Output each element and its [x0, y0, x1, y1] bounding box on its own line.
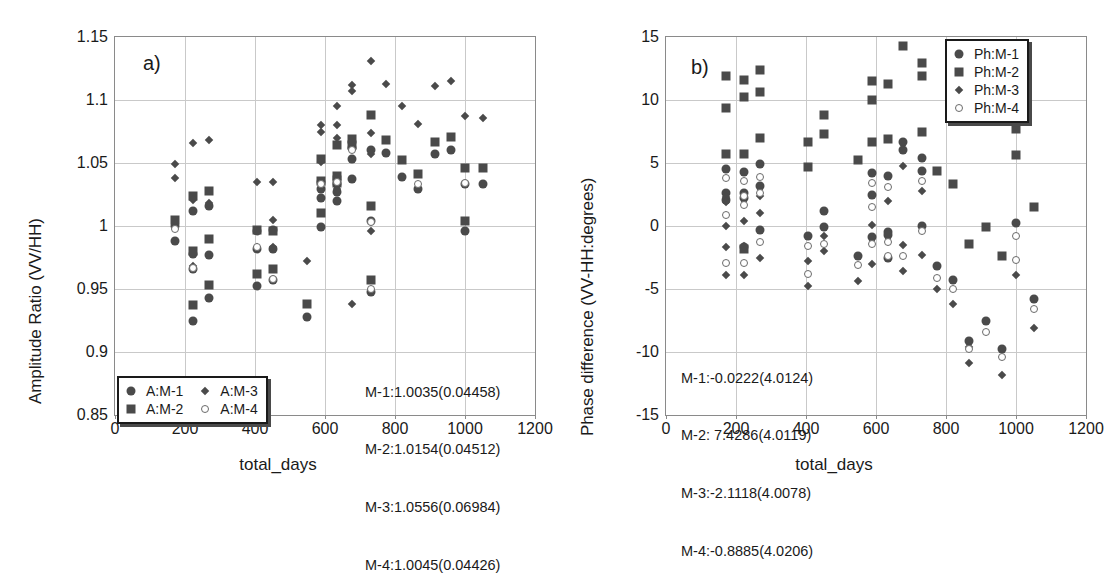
data-point [899, 41, 908, 50]
data-point [804, 242, 812, 250]
data-point [884, 79, 893, 88]
legend-label: Ph:M-4 [974, 100, 1019, 116]
data-point [252, 269, 261, 278]
y-axis-tick-label: 0 [650, 217, 666, 235]
data-point [820, 130, 829, 139]
data-point [1030, 305, 1038, 313]
data-point [252, 282, 261, 291]
data-point [367, 285, 375, 293]
legend-item-a-m3[interactable]: A:M-3 [199, 383, 257, 399]
legend-label: A:M-1 [146, 383, 183, 399]
data-point [431, 137, 440, 146]
data-point [1012, 151, 1021, 160]
open-circle-icon [199, 403, 211, 415]
data-point [917, 186, 925, 194]
data-point [755, 160, 764, 169]
data-point [917, 153, 926, 162]
data-point [917, 72, 926, 81]
data-point [333, 102, 341, 110]
data-point [1012, 219, 1021, 228]
panel-b: Phase difference (VV-HH:degrees) -15-10-… [556, 0, 1112, 511]
data-point [740, 177, 748, 185]
y-axis-tick-label: 0.95 [77, 280, 115, 298]
data-point [722, 150, 731, 159]
legend-item-a-m4[interactable]: A:M-4 [199, 401, 257, 417]
data-point [756, 209, 764, 217]
data-point [188, 247, 197, 256]
data-point [188, 301, 197, 310]
legend-item-b-m4[interactable]: Ph:M-4 [953, 100, 1019, 116]
data-point [933, 262, 942, 271]
legend-label: A:M-4 [220, 401, 257, 417]
data-point [756, 253, 764, 261]
data-point [998, 370, 1006, 378]
legend-item-b-m3[interactable]: Ph:M-3 [953, 82, 1019, 98]
data-point [478, 180, 487, 189]
panel-b-legend[interactable]: Ph:M-1 Ph:M-2 Ph:M-3 Ph:M-4 [945, 39, 1029, 123]
data-point [853, 156, 862, 165]
data-point [755, 225, 764, 234]
data-point [461, 164, 470, 173]
data-point [1029, 324, 1037, 332]
data-point [269, 227, 278, 236]
data-point [917, 59, 926, 68]
data-point [205, 136, 213, 144]
data-point [382, 148, 391, 157]
data-point [269, 275, 277, 283]
stats-line: M-4:-0.8885(4.0206) [681, 542, 813, 561]
y-axis-tick-label: 1.1 [86, 91, 115, 109]
data-point [884, 252, 892, 260]
filled-diamond-icon [199, 385, 211, 397]
y-axis-tick-label: 10 [641, 91, 666, 109]
data-point [820, 247, 828, 255]
data-point [189, 264, 197, 272]
data-point [461, 216, 470, 225]
data-point [949, 300, 957, 308]
panel-b-x-axis-title: total_days [556, 455, 1112, 475]
legend-item-b-m1[interactable]: Ph:M-1 [953, 46, 1019, 62]
data-point [478, 113, 486, 121]
data-point [398, 172, 407, 181]
legend-item-b-m2[interactable]: Ph:M-2 [953, 64, 1019, 80]
stats-line: M-3:1.0556(0.06984) [365, 498, 500, 517]
data-point [884, 135, 893, 144]
data-point [722, 174, 730, 182]
data-point [918, 227, 926, 235]
data-point [204, 234, 213, 243]
data-point [964, 239, 973, 248]
data-point [1012, 256, 1020, 264]
data-point [269, 264, 278, 273]
data-point [1012, 232, 1020, 240]
data-point [917, 127, 926, 136]
legend-item-a-m2[interactable]: A:M-2 [125, 401, 183, 417]
data-point [431, 82, 439, 90]
data-point [367, 218, 375, 226]
data-point [867, 96, 876, 105]
y-axis-tick-label: 0.9 [86, 343, 115, 361]
data-point [303, 257, 311, 265]
data-point [302, 312, 311, 321]
data-point [820, 223, 829, 232]
filled-square-icon [953, 66, 965, 78]
data-point [755, 133, 764, 142]
legend-item-a-m1[interactable]: A:M-1 [125, 383, 183, 399]
data-point [252, 225, 261, 234]
data-point [722, 211, 730, 219]
data-point [1012, 124, 1021, 133]
data-point [171, 215, 180, 224]
data-point [933, 166, 942, 175]
data-point [204, 281, 213, 290]
data-point [253, 178, 261, 186]
data-point [899, 146, 908, 155]
data-point [333, 196, 342, 205]
data-point [868, 220, 876, 228]
data-point [998, 353, 1006, 361]
data-point [854, 277, 862, 285]
data-point [933, 274, 941, 282]
stats-line: M-1:1.0035(0.04458) [365, 383, 500, 402]
x-axis-tick-label: 0 [662, 415, 671, 438]
panel-a-legend[interactable]: A:M-1 A:M-2 A:M-3 A:M-4 [117, 376, 268, 424]
panel-b-y-axis-title: Phase difference (VV-HH:degrees) [578, 178, 598, 436]
data-point [899, 252, 907, 260]
data-point [820, 206, 829, 215]
